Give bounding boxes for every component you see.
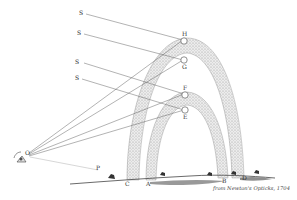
label-s-3: S [75,58,79,65]
label-s-2: S [77,29,81,36]
label-b: B [222,177,227,184]
label-o: O [25,149,30,156]
label-e: E [183,113,187,120]
label-d: D [242,174,247,181]
horizon-line-op [30,157,98,170]
inner-rainbow-arc [146,92,228,180]
droplet-h [181,38,187,44]
label-h: H [182,30,187,37]
figure-caption: from Newton's Opticks, 1704 [212,185,290,192]
label-f: F [183,84,187,91]
labels: S S S S H G F E O P C A B D from Newton'… [25,9,290,192]
droplet-f [182,92,188,98]
label-s-4: S [75,74,79,81]
label-s-1: S [79,9,83,16]
label-c: C [125,180,130,187]
label-p: P [96,164,100,171]
newton-rainbow-diagram: S S S S H G F E O P C A B D from Newton'… [0,0,297,200]
label-a: A [145,180,151,187]
label-g: G [182,63,187,70]
